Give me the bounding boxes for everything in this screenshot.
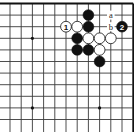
white-stone-icon	[72, 21, 83, 32]
white-stone-icon	[105, 33, 116, 44]
black-stone-icon	[72, 45, 83, 56]
point-label-a: a	[107, 10, 115, 20]
white-stone	[94, 45, 105, 56]
black-stone-icon	[83, 21, 94, 32]
white-stone	[94, 33, 105, 44]
black-stone	[94, 56, 105, 67]
point-label-b: b	[107, 22, 115, 32]
black-stone	[83, 21, 94, 32]
star-point	[98, 106, 101, 109]
white-stone-icon	[94, 33, 105, 44]
point-label-text: b	[109, 22, 113, 32]
white-stone-icon	[94, 45, 105, 56]
black-stone-icon	[72, 33, 83, 44]
black-stone-icon	[83, 10, 94, 21]
point-labels: ab	[107, 10, 115, 32]
star-point	[31, 106, 34, 109]
point-label-text: a	[109, 10, 113, 20]
black-stone	[83, 45, 94, 56]
black-stone	[83, 10, 94, 21]
black-stone-2: 2	[117, 21, 128, 32]
white-stone	[72, 21, 83, 32]
move-number: 1	[64, 23, 69, 32]
black-stone-icon	[83, 45, 94, 56]
white-stone-1: 1	[61, 21, 72, 32]
black-stone	[72, 45, 83, 56]
white-stone-icon	[83, 33, 94, 44]
star-point	[31, 37, 34, 40]
black-stone	[72, 33, 83, 44]
white-stone	[83, 33, 94, 44]
black-stone-icon	[94, 56, 105, 67]
move-number: 2	[120, 23, 125, 32]
go-board: ab 12	[0, 0, 134, 132]
white-stone	[105, 33, 116, 44]
